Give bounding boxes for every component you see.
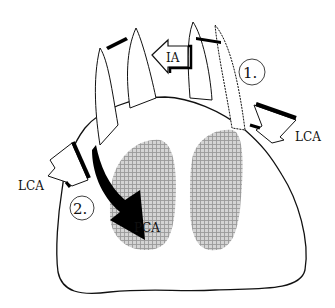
svg-text:2.: 2. <box>73 200 87 218</box>
small-arrow-left-tip <box>106 37 128 50</box>
marker-1: 1. <box>239 59 265 85</box>
pca-label: PCA <box>134 221 160 235</box>
ia-arrow: IA <box>152 40 191 73</box>
diagram-canvas: IA 1. LCA LCA 2. PCA <box>0 0 335 308</box>
ia-label: IA <box>166 51 180 65</box>
right-shaded-region <box>190 130 243 250</box>
marker-2: 2. <box>70 196 94 220</box>
lca-right-arrow: LCA <box>250 104 321 144</box>
lca-left-label: LCA <box>18 179 44 193</box>
lca-right-label: LCA <box>295 130 321 144</box>
svg-text:1.: 1. <box>243 64 257 82</box>
